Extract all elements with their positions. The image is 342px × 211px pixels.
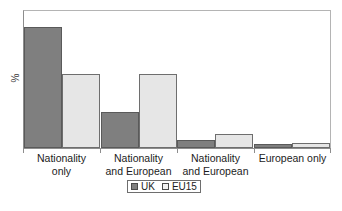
- legend-swatch-eu15-icon: [162, 183, 169, 190]
- bar-eu15-2: [215, 134, 253, 148]
- bar-uk-3: [254, 144, 292, 148]
- bar-eu15-1: [139, 74, 177, 148]
- bar-uk-0: [24, 27, 62, 148]
- legend-label-uk: UK: [141, 181, 155, 192]
- x-axis-category-label-0: Nationality only: [23, 152, 100, 177]
- bar-uk-2: [177, 140, 215, 148]
- chart-legend: UK EU15: [127, 180, 201, 193]
- plot-area: [24, 11, 330, 148]
- plot-frame: [23, 10, 331, 149]
- x-axis-category-label-3: European only: [254, 152, 331, 165]
- x-axis-category-label-2: Nationality and European: [177, 152, 254, 177]
- legend-label-eu15: EU15: [172, 181, 197, 192]
- legend-swatch-uk-icon: [131, 183, 138, 190]
- legend-item-uk: UK: [131, 181, 155, 192]
- bar-eu15-3: [292, 143, 330, 148]
- chart-figure: % Nationality only Nationality and Europ…: [0, 0, 342, 211]
- bar-uk-1: [101, 112, 139, 148]
- legend-item-eu15: EU15: [162, 181, 197, 192]
- bar-eu15-0: [62, 74, 100, 148]
- x-axis-category-label-1: Nationality and European: [100, 152, 177, 177]
